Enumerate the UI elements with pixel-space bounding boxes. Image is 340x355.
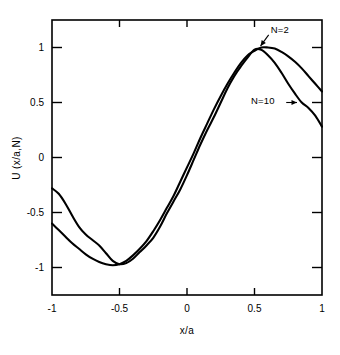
- y-tick-label-0: -1: [35, 262, 44, 273]
- y-axis-tick-labels: -1-0.500.51: [27, 42, 45, 273]
- figure-container: -1-0.500.51 -1-0.500.51 N=2N=10 x/a U (x…: [0, 0, 340, 355]
- x-tick-label-0: -1: [48, 303, 57, 314]
- x-axis-ticks-bottom: [120, 288, 255, 295]
- annotation-arrowhead-icon-0: [261, 40, 266, 46]
- data-series-group: [52, 47, 322, 265]
- x-axis-title: x/a: [180, 325, 195, 336]
- y-tick-label-1: -0.5: [27, 207, 45, 218]
- annotation-arrowhead-icon-1: [292, 100, 298, 105]
- series-annotations: N=2N=10: [251, 24, 297, 105]
- x-axis-tick-labels: -1-0.500.51: [48, 303, 326, 314]
- y-tick-label-3: 0.5: [30, 97, 44, 108]
- y-tick-label-2: 0: [38, 152, 44, 163]
- plot-frame: [52, 20, 322, 295]
- x-tick-label-1: -0.5: [111, 303, 129, 314]
- x-tick-label-3: 0.5: [248, 303, 262, 314]
- series-line-n-2: [52, 47, 322, 265]
- y-axis-title: U (x/a,N): [11, 136, 22, 180]
- series-line-n-10: [52, 49, 322, 264]
- y-tick-label-4: 1: [38, 42, 44, 53]
- x-tick-label-4: 1: [319, 303, 325, 314]
- x-tick-label-2: 0: [184, 303, 190, 314]
- x-axis-ticks-top: [120, 20, 255, 27]
- line-chart: -1-0.500.51 -1-0.500.51 N=2N=10 x/a U (x…: [0, 0, 340, 355]
- annotation-label-n-2: N=2: [271, 24, 289, 35]
- y-axis-ticks-left: [52, 48, 62, 268]
- annotation-label-n-10: N=10: [251, 95, 275, 106]
